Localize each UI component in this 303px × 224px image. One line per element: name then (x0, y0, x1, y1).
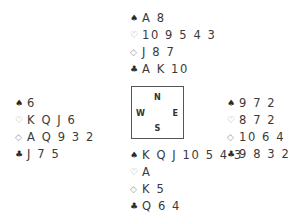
west-clubs: J 7 5 (27, 146, 60, 163)
west-spades: 6 (27, 95, 36, 112)
south-hearts: A (142, 164, 151, 181)
west-hearts-row: ♡K Q J 6 (15, 112, 95, 129)
north-clubs: A K 10 (142, 61, 189, 78)
east-spades: 9 7 2 (239, 95, 276, 112)
north-hand: ♠A 8 ♡10 9 5 4 3 ◇J 8 7 ♣A K 10 (130, 10, 217, 78)
diamond-icon: ◇ (130, 44, 142, 61)
club-icon: ♣ (15, 146, 27, 163)
spade-icon: ♠ (15, 95, 27, 112)
spade-icon: ♠ (130, 10, 142, 27)
south-spades-row: ♠K Q J 10 5 4 3 (130, 147, 243, 164)
south-clubs: Q 6 4 (142, 198, 181, 215)
south-hand: ♠K Q J 10 5 4 3 ♡A ◇K 5 ♣Q 6 4 (130, 147, 243, 215)
club-icon: ♣ (130, 198, 142, 215)
south-diamonds: K 5 (142, 181, 165, 198)
east-clubs: 9 8 3 2 (239, 146, 290, 163)
diamond-icon: ◇ (15, 129, 27, 146)
east-diamonds-row: ◇10 6 4 (227, 129, 290, 146)
compass-north: N (154, 92, 161, 102)
compass-south: S (155, 123, 161, 133)
east-diamonds: 10 6 4 (239, 129, 285, 146)
west-diamonds-row: ◇A Q 9 3 2 (15, 129, 95, 146)
compass-east: E (172, 108, 178, 118)
heart-icon: ♡ (15, 112, 27, 129)
north-spades-row: ♠A 8 (130, 10, 217, 27)
east-hearts-row: ♡8 7 2 (227, 112, 290, 129)
south-clubs-row: ♣Q 6 4 (130, 198, 243, 215)
south-spades: K Q J 10 5 4 3 (142, 147, 243, 164)
west-diamonds: A Q 9 3 2 (27, 129, 95, 146)
compass-box: N W E S (131, 86, 184, 139)
south-hearts-row: ♡A (130, 164, 243, 181)
east-spades-row: ♠9 7 2 (227, 95, 290, 112)
east-hearts: 8 7 2 (239, 112, 276, 129)
north-hearts: 10 9 5 4 3 (142, 27, 217, 44)
north-hearts-row: ♡10 9 5 4 3 (130, 27, 217, 44)
north-diamonds-row: ◇J 8 7 (130, 44, 217, 61)
heart-icon: ♡ (227, 112, 239, 129)
west-clubs-row: ♣J 7 5 (15, 146, 95, 163)
north-spades: A 8 (142, 10, 166, 27)
diamond-icon: ◇ (130, 181, 142, 198)
spade-icon: ♠ (227, 95, 239, 112)
compass-west: W (136, 108, 145, 118)
north-clubs-row: ♣A K 10 (130, 61, 217, 78)
west-hearts: K Q J 6 (27, 112, 76, 129)
diamond-icon: ◇ (227, 129, 239, 146)
spade-icon: ♠ (130, 147, 142, 164)
heart-icon: ♡ (130, 27, 142, 44)
north-diamonds: J 8 7 (142, 44, 175, 61)
west-hand: ♠6 ♡K Q J 6 ◇A Q 9 3 2 ♣J 7 5 (15, 95, 95, 163)
south-diamonds-row: ◇K 5 (130, 181, 243, 198)
west-spades-row: ♠6 (15, 95, 95, 112)
club-icon: ♣ (130, 61, 142, 78)
heart-icon: ♡ (130, 164, 142, 181)
